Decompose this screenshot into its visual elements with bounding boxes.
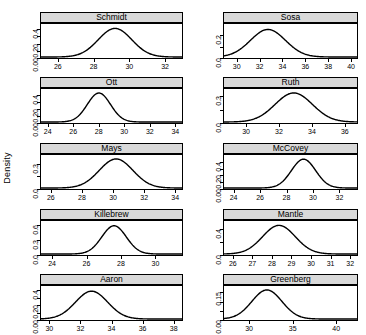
- panel-ruth: Ruth0.00.330323436: [223, 77, 358, 124]
- x-tick-label: 24: [230, 194, 238, 201]
- x-tick: [328, 59, 329, 62]
- y-tick-label: 0.20: [33, 44, 40, 58]
- x-tick: [52, 256, 53, 259]
- y-axis-title: Density: [0, 0, 14, 335]
- x-tick: [331, 256, 332, 259]
- x-tick: [82, 190, 83, 193]
- x-tick: [282, 59, 283, 62]
- x-tick: [260, 59, 261, 62]
- x-tick: [94, 59, 95, 62]
- y-tick-label: 0.15: [216, 292, 223, 306]
- x-tick-label: 26: [69, 128, 77, 135]
- x-tick: [313, 190, 314, 193]
- panel-strip-label-sosa: Sosa: [223, 12, 358, 23]
- x-tick: [58, 59, 59, 62]
- panel-plot-area-ruth: [223, 88, 358, 124]
- x-tick-label: 35: [289, 325, 297, 332]
- x-tick: [48, 124, 49, 127]
- x-axis-killebrew: 24262830: [40, 256, 183, 272]
- y-axis-ott: 0.000.200.4: [18, 88, 40, 124]
- panel-killebrew: Killebrew0.00.30.624262830: [40, 209, 183, 256]
- x-tick-label: 32: [275, 128, 283, 135]
- x-tick: [246, 124, 247, 127]
- x-axis-mccovey: 2426283032: [223, 190, 358, 206]
- y-tick-label: 0.00: [33, 58, 40, 72]
- x-tick: [234, 190, 235, 193]
- x-tick: [291, 256, 292, 259]
- x-axis-sosa: 303234363840: [223, 59, 358, 75]
- x-tick-label: 36: [301, 63, 309, 70]
- x-tick-label: 30: [233, 63, 241, 70]
- y-tick: [220, 242, 223, 243]
- y-tick: [220, 110, 223, 111]
- panel-strip-label-schmidt: Schmidt: [40, 12, 183, 23]
- y-tick-label: 0.2: [216, 35, 223, 45]
- x-tick-label: 27: [248, 260, 256, 267]
- panel-plot-area-greenberg: [223, 285, 358, 321]
- y-tick-label: 0.0: [216, 255, 223, 265]
- panel-plot-area-mantle: [223, 220, 358, 256]
- x-tick: [51, 190, 52, 193]
- x-axis-mays: 2628303234: [40, 190, 183, 206]
- panel-plot-area-mays: [40, 154, 183, 190]
- x-tick-label: 30: [309, 194, 317, 201]
- y-tick-label: 0.6: [33, 225, 40, 235]
- x-tick-label: 30: [125, 63, 133, 70]
- panel-mays: Mays0.00.32628303234: [40, 143, 183, 190]
- x-tick-label: 34: [171, 128, 179, 135]
- x-tick-label: 34: [308, 128, 316, 135]
- panel-strip-label-greenberg: Greenberg: [223, 274, 358, 285]
- y-axis-sosa: 0.00.2: [201, 23, 223, 59]
- x-tick-label: 34: [279, 63, 287, 70]
- y-tick-label: 0.4: [216, 229, 223, 239]
- x-tick-label: 30: [109, 194, 117, 201]
- y-tick-label: 0.3: [33, 164, 40, 174]
- x-tick: [237, 59, 238, 62]
- x-tick-label: 26: [229, 260, 237, 267]
- y-tick-label: 0.0: [216, 58, 223, 68]
- x-tick: [121, 256, 122, 259]
- y-tick: [37, 176, 40, 177]
- panel-strip-label-mantle: Mantle: [223, 209, 358, 220]
- x-tick-label: 28: [90, 63, 98, 70]
- x-tick: [175, 190, 176, 193]
- y-axis-ruth: 0.00.3: [201, 88, 223, 124]
- x-tick-label: 32: [140, 194, 148, 201]
- x-tick: [351, 59, 352, 62]
- y-tick-label: 0.4: [33, 290, 40, 300]
- y-tick-label: 0.4: [33, 29, 40, 39]
- x-tick: [143, 321, 144, 324]
- x-tick-label: 31: [327, 260, 335, 267]
- x-tick-label: 36: [139, 325, 147, 332]
- y-tick-label: 0.00: [216, 320, 223, 334]
- y-axis-mccovey: 0.000.200.4: [201, 154, 223, 190]
- x-tick: [175, 124, 176, 127]
- panel-strip-label-aaron: Aaron: [40, 274, 183, 285]
- y-tick-label: 0.00: [33, 123, 40, 137]
- x-tick: [305, 59, 306, 62]
- y-tick-label: 0.00: [33, 320, 40, 334]
- x-tick: [336, 321, 337, 324]
- panel-strip-label-ruth: Ruth: [223, 77, 358, 88]
- panel-sosa: Sosa0.00.2303234363840: [223, 12, 358, 59]
- x-tick-label: 30: [245, 325, 253, 332]
- x-tick-label: 24: [48, 260, 56, 267]
- x-tick-label: 32: [346, 260, 354, 267]
- x-tick-label: 30: [307, 260, 315, 267]
- x-tick: [350, 256, 351, 259]
- x-tick-label: 32: [146, 128, 154, 135]
- x-tick: [124, 124, 125, 127]
- panel-plot-area-schmidt: [40, 23, 183, 59]
- x-tick: [339, 190, 340, 193]
- x-tick-label: 40: [347, 63, 355, 70]
- x-tick-label: 30: [45, 325, 53, 332]
- y-tick-label: 0.0: [33, 189, 40, 199]
- x-tick: [272, 256, 273, 259]
- y-tick-label: 0.0: [33, 255, 40, 265]
- x-tick-label: 32: [256, 63, 264, 70]
- y-axis-aaron: 0.000.200.4: [18, 285, 40, 321]
- x-tick-label: 26: [83, 260, 91, 267]
- x-tick-label: 24: [44, 128, 52, 135]
- panel-mantle: Mantle0.00.426272829303132: [223, 209, 358, 256]
- x-tick: [249, 321, 250, 324]
